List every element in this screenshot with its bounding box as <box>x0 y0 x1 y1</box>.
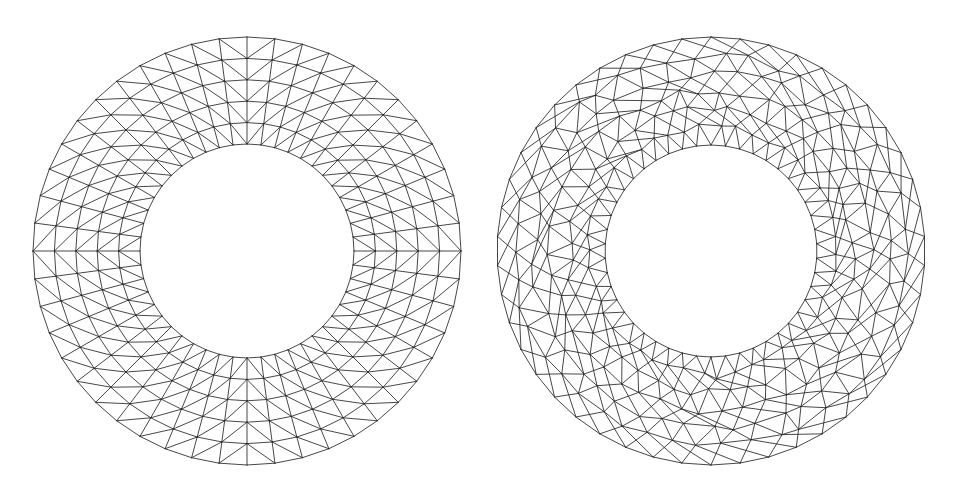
mesh-edge-unstructured <box>527 314 548 327</box>
mesh-edge-structured <box>264 375 280 378</box>
mesh-edge-structured <box>77 229 98 232</box>
mesh-edge-unstructured <box>855 259 869 269</box>
mesh-edge-unstructured <box>862 259 890 289</box>
mesh-edge-unstructured <box>547 255 551 276</box>
mesh-edge-unstructured <box>798 151 813 159</box>
mesh-edge-structured <box>275 148 288 152</box>
mesh-edge-unstructured <box>813 148 833 151</box>
mesh-edge-structured <box>247 81 269 101</box>
mesh-edge-unstructured <box>752 365 785 369</box>
mesh-edge-unstructured <box>647 432 672 440</box>
mesh-edge-structured <box>111 355 126 372</box>
mesh-edge-structured <box>181 389 189 409</box>
mesh-edge-structured <box>286 389 305 395</box>
mesh-edge-unstructured <box>691 71 715 78</box>
mesh-edge-unstructured <box>841 111 845 125</box>
mesh-edge-unstructured <box>684 107 687 132</box>
mesh-edge-structured <box>366 337 395 343</box>
mesh-edge-unstructured <box>653 39 682 45</box>
mesh-edge-unstructured <box>846 220 853 243</box>
mesh-edge-structured <box>117 418 151 421</box>
mesh-edge-unstructured <box>680 90 698 94</box>
mesh-edge-unstructured <box>642 138 654 149</box>
mesh-edge-structured <box>349 173 377 176</box>
mesh-edge-unstructured <box>802 120 803 139</box>
mesh-edge-structured <box>296 132 311 139</box>
mesh-edge-structured <box>325 353 338 370</box>
mesh-edge-structured <box>97 234 120 251</box>
mesh-edge-structured <box>396 231 397 251</box>
mesh-edge-unstructured <box>722 407 743 411</box>
mesh-edge-structured <box>417 121 433 144</box>
mesh-edge-unstructured <box>532 177 539 191</box>
mesh-edge-structured <box>227 400 247 401</box>
mesh-edge-unstructured <box>829 168 846 172</box>
mesh-edge-structured <box>98 271 123 285</box>
mesh-edge-structured <box>385 185 405 193</box>
mesh-edge-unstructured <box>640 63 666 68</box>
mesh-edge-structured <box>343 84 364 98</box>
mesh-edge-unstructured <box>855 250 874 259</box>
mesh-edge-unstructured <box>593 328 613 333</box>
mesh-edge-structured <box>130 98 143 115</box>
mesh-edge-unstructured <box>682 353 683 368</box>
mesh-edge-structured <box>349 315 358 329</box>
mesh-edge-structured <box>98 271 102 290</box>
mesh-edge-unstructured <box>698 94 715 110</box>
mesh-edge-unstructured <box>828 113 833 148</box>
mesh-edge-structured <box>349 173 358 187</box>
mesh-edge-structured <box>54 251 56 276</box>
mesh-edge-unstructured <box>752 348 753 364</box>
mesh-edge-unstructured <box>556 128 577 133</box>
mesh-edge-unstructured <box>792 340 799 358</box>
mesh-edge-unstructured <box>822 68 846 85</box>
mesh-edge-unstructured <box>691 78 720 93</box>
mesh-edge-structured <box>269 60 272 81</box>
mesh-edge-structured <box>322 121 338 132</box>
mesh-edge-structured <box>109 187 136 194</box>
mesh-edge-structured <box>225 421 247 422</box>
mesh-edge-unstructured <box>590 346 610 354</box>
mesh-edge-unstructured <box>607 187 617 202</box>
mesh-edge-unstructured <box>501 295 509 323</box>
mesh-edge-unstructured <box>572 331 590 355</box>
mesh-edge-unstructured <box>726 53 737 71</box>
mesh-edge-unstructured <box>802 113 828 120</box>
mesh-edge-structured <box>62 121 78 144</box>
mesh-edge-unstructured <box>847 168 870 170</box>
mesh-edge-structured <box>128 300 135 315</box>
mesh-edge-unstructured <box>613 88 643 100</box>
mesh-edge-unstructured <box>541 187 562 214</box>
mesh-edge-structured <box>350 268 374 279</box>
mesh-edge-structured <box>269 421 272 442</box>
mesh-edge-structured <box>311 353 325 362</box>
mesh-edge-unstructured <box>666 63 690 78</box>
mesh-edge-structured <box>459 223 461 251</box>
mesh-edge-unstructured <box>766 368 786 384</box>
mesh-edge-structured <box>264 106 286 123</box>
mesh-edge-structured <box>225 401 247 421</box>
mesh-edge-unstructured <box>684 132 696 146</box>
mesh-edge-unstructured <box>778 148 785 169</box>
mesh-edge-structured <box>412 295 433 301</box>
mesh-edge-unstructured <box>532 264 552 275</box>
mesh-edge-unstructured <box>786 407 801 413</box>
mesh-edge-structured <box>425 306 454 324</box>
mesh-edge-unstructured <box>899 306 913 323</box>
mesh-edge-unstructured <box>547 243 572 254</box>
mesh-edge-structured <box>192 437 198 458</box>
mesh-edge-unstructured <box>715 107 727 111</box>
mesh-edge-structured <box>140 66 151 85</box>
mesh-edge-unstructured <box>785 105 805 107</box>
mesh-edge-unstructured <box>568 280 576 296</box>
mesh-edge-structured <box>40 169 49 196</box>
mesh-edge-structured <box>156 353 169 370</box>
mesh-edge-unstructured <box>785 106 786 131</box>
mesh-edge-structured <box>338 357 353 370</box>
mesh-edge-unstructured <box>653 45 694 59</box>
mesh-edge-structured <box>414 144 433 155</box>
mesh-edge-structured <box>304 381 322 390</box>
mesh-edge-unstructured <box>715 426 733 430</box>
mesh-edge-structured <box>99 337 128 343</box>
mesh-edge-structured <box>62 358 78 381</box>
